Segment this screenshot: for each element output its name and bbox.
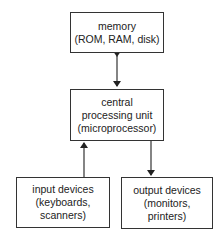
memory-label: memory [98,20,136,33]
memory-detail: (ROM, RAM, disk) [74,33,159,46]
cpu-box: central processing unit (microprocessor) [70,89,164,141]
input-devices-box: input devices (keyboards, scanners) [16,177,110,228]
input-label: input devices [32,183,93,196]
cpu-label-line1: central [101,96,133,109]
output-detail-2: printers) [148,210,187,223]
output-detail-1: (monitors, [144,197,191,210]
cpu-label-line2: processing unit [82,109,153,122]
input-detail-1: (keyboards, [36,196,91,209]
input-detail-2: scanners) [40,209,86,222]
output-devices-box: output devices (monitors, printers) [121,177,213,229]
memory-box: memory (ROM, RAM, disk) [70,12,164,53]
cpu-detail: (microprocessor) [78,122,157,135]
output-label: output devices [133,184,201,197]
